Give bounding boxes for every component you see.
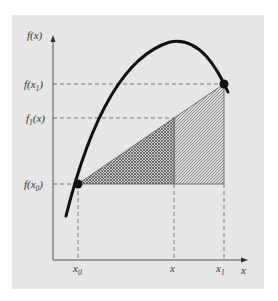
x-tick-x: x: [169, 262, 175, 274]
point-x0: [74, 180, 83, 189]
point-x1: [220, 80, 229, 89]
y-axis-label: f(x): [27, 29, 43, 42]
x-axis-label: x: [240, 264, 246, 276]
interpolation-diagram: f(x) f(x1) f1(x) f(x0) x0 x x1 x: [0, 0, 278, 301]
